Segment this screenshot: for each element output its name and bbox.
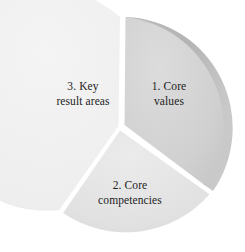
pie-diagram: 1. Core values 3. Key result areas 2. Co…	[0, 0, 245, 252]
pie-chart-svg	[0, 0, 245, 252]
